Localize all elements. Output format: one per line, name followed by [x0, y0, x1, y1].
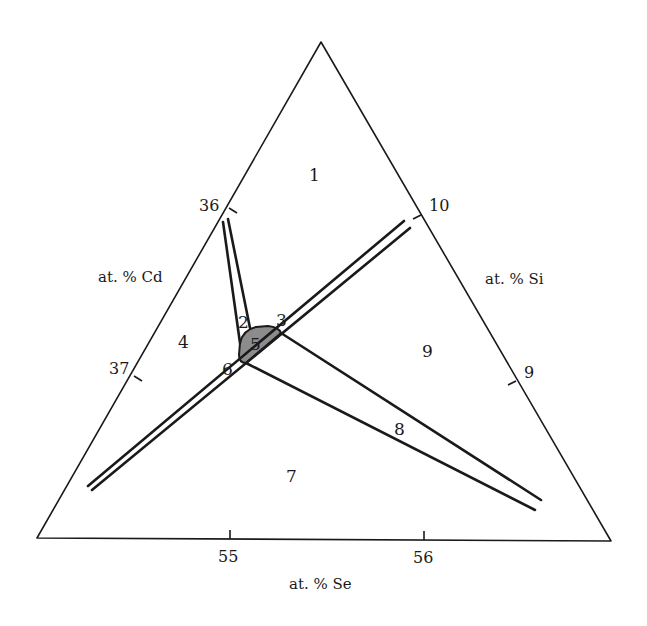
axis-label-se: at. % Se — [289, 575, 352, 593]
region-label-3: 3 — [276, 310, 287, 330]
tick-si-9 — [508, 381, 516, 385]
axis-label-cd: at. % Cd — [98, 268, 163, 286]
tick-label-se-56: 56 — [413, 548, 433, 567]
band-6-3-upper — [88, 221, 404, 486]
region-label-4: 4 — [178, 332, 189, 352]
ternary-diagram: 1 2 3 4 5 6 7 8 9 36 37 10 9 55 56 at. %… — [0, 0, 647, 626]
region-label-6: 6 — [222, 359, 233, 379]
region-label-7: 7 — [286, 466, 297, 486]
region-label-5: 5 — [250, 334, 261, 354]
tick-label-se-55: 55 — [218, 547, 238, 566]
tick-label-si-10: 10 — [429, 196, 449, 215]
tick-label-si-9: 9 — [524, 363, 534, 382]
tick-cd-36 — [229, 208, 237, 213]
band-8-upper — [281, 333, 541, 500]
band-8-lower — [246, 363, 535, 510]
region-label-8: 8 — [394, 419, 405, 439]
tick-si-10 — [413, 215, 421, 219]
tick-cd-37 — [134, 376, 142, 381]
tick-label-cd-36: 36 — [199, 196, 219, 215]
axis-label-si: at. % Si — [485, 270, 544, 288]
region-label-9: 9 — [422, 341, 433, 361]
region-label-2: 2 — [238, 312, 249, 332]
region-label-1: 1 — [309, 165, 320, 185]
tick-label-cd-37: 37 — [109, 359, 129, 378]
triangle-outline — [37, 42, 611, 541]
